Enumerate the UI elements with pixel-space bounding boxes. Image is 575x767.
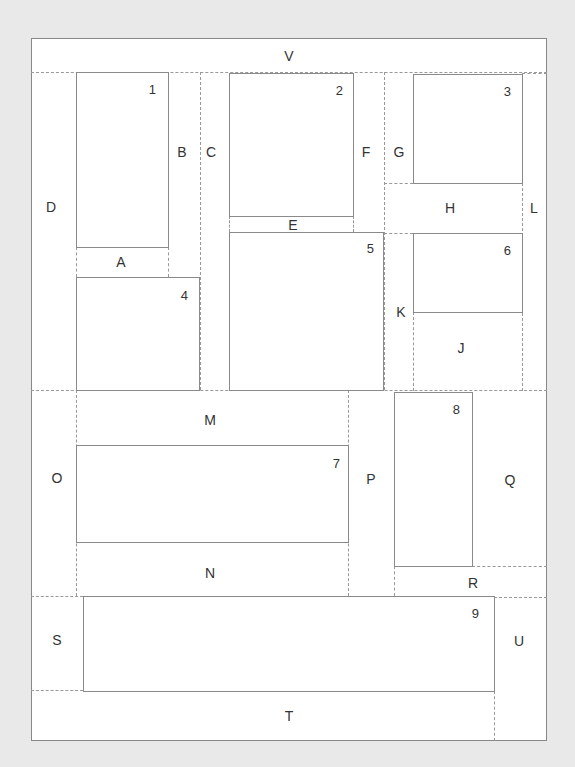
divider-e-right bbox=[353, 216, 354, 232]
region-m: M bbox=[204, 412, 216, 428]
box-8-label: 8 bbox=[453, 402, 460, 417]
divider-s-top bbox=[31, 596, 83, 597]
region-n: N bbox=[205, 565, 215, 581]
region-e: E bbox=[288, 217, 297, 233]
box-7-label: 7 bbox=[333, 456, 340, 471]
box-1: 1 bbox=[76, 72, 169, 248]
divider-h-bottom bbox=[384, 233, 413, 234]
box-4-label: 4 bbox=[181, 288, 188, 303]
region-b: B bbox=[177, 144, 186, 160]
region-t: T bbox=[285, 708, 294, 724]
box-4: 4 bbox=[76, 277, 200, 391]
box-5: 5 bbox=[229, 232, 384, 391]
region-k: K bbox=[396, 304, 405, 320]
divider-a-left bbox=[76, 247, 77, 277]
region-l: L bbox=[530, 200, 538, 216]
region-u: U bbox=[514, 633, 524, 649]
divider-c-left bbox=[200, 72, 201, 390]
divider-f-right bbox=[384, 72, 385, 390]
region-c: C bbox=[206, 144, 216, 160]
box-6: 6 bbox=[413, 233, 523, 313]
box-1-label: 1 bbox=[149, 82, 156, 97]
region-f: F bbox=[362, 144, 371, 160]
region-d: D bbox=[46, 199, 56, 215]
box-9: 9 bbox=[83, 596, 495, 692]
region-s: S bbox=[52, 632, 61, 648]
box-3-label: 3 bbox=[504, 84, 511, 99]
divider-q-bottom bbox=[472, 566, 547, 567]
divider-u-top bbox=[494, 597, 547, 598]
box-2-label: 2 bbox=[336, 83, 343, 98]
divider-a-right bbox=[168, 247, 169, 277]
region-q: Q bbox=[505, 472, 516, 488]
region-p: P bbox=[366, 471, 375, 487]
region-o: O bbox=[52, 470, 63, 486]
divider-t-right bbox=[494, 691, 495, 741]
divider-r-left bbox=[394, 566, 395, 596]
region-v: V bbox=[284, 48, 293, 64]
divider-e-left bbox=[229, 216, 230, 232]
diagram-canvas: 1 2 3 4 5 6 7 8 9 V D B C A E F G H L K … bbox=[0, 0, 575, 767]
region-a: A bbox=[116, 254, 125, 270]
box-3: 3 bbox=[413, 74, 523, 184]
box-5-label: 5 bbox=[367, 241, 374, 256]
divider-l-top bbox=[522, 73, 547, 74]
region-r: R bbox=[468, 575, 478, 591]
box-7: 7 bbox=[76, 445, 349, 543]
box-9-label: 9 bbox=[472, 606, 479, 621]
box-8: 8 bbox=[394, 392, 473, 567]
divider-s-bottom bbox=[31, 690, 83, 691]
divider-g-bottom bbox=[384, 183, 413, 184]
region-g: G bbox=[394, 144, 405, 160]
region-j: J bbox=[458, 340, 465, 356]
box-6-label: 6 bbox=[504, 243, 511, 258]
divider-j-left bbox=[413, 312, 414, 391]
region-h: H bbox=[445, 200, 455, 216]
box-2: 2 bbox=[229, 73, 354, 217]
